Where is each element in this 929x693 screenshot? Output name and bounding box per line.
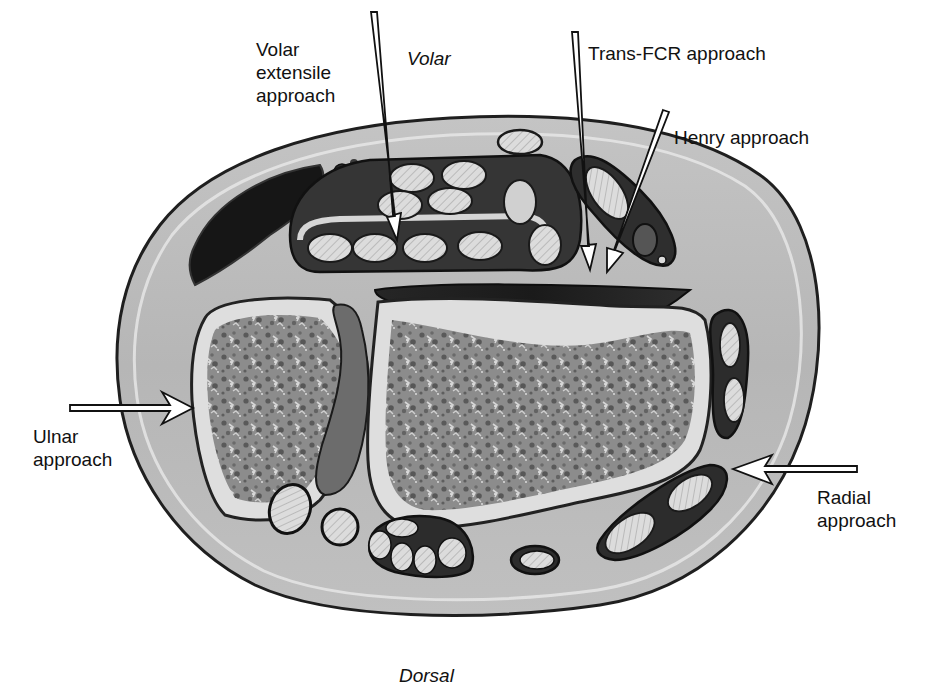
wrist-cross-section-diagram [0, 0, 929, 693]
label-orientation-dorsal: Dorsal [399, 664, 454, 687]
label-trans-fcr-approach: Trans-FCR approach [588, 42, 766, 65]
label-volar-extensile-approach: Volar extensile approach [256, 38, 335, 107]
label-henry-approach: Henry approach [674, 126, 809, 149]
label-radial-approach: Radial approach [817, 486, 896, 532]
label-ulnar-approach: Ulnar approach [33, 425, 112, 471]
label-orientation-volar: Volar [407, 47, 451, 70]
